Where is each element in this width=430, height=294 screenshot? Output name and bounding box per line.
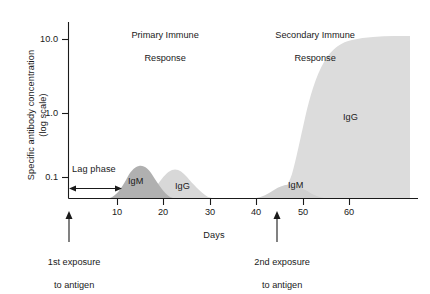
lag-phase-arrow-head-left <box>69 186 76 192</box>
x-tick-label-20: 20 <box>151 207 175 217</box>
y-tick-label-01: 0.1 <box>22 172 58 182</box>
curve-label-igg-secondary: IgG <box>343 112 358 122</box>
first-exposure-annotation: 1st exposure to antigen <box>18 245 120 294</box>
first-exposure-arrow-head <box>66 211 73 219</box>
x-tick-label-50: 50 <box>291 207 315 217</box>
primary-response-title: Primary Immune Response <box>94 18 226 76</box>
first-exposure-line1: 1st exposure <box>48 257 101 267</box>
x-tick-label-10: 10 <box>105 207 129 217</box>
curve-label-igm-secondary: IgM <box>288 180 303 190</box>
primary-response-title-line1: Primary Immune <box>131 30 198 40</box>
primary-response-title-line2: Response <box>144 53 185 63</box>
second-exposure-annotation: 2nd exposure to antigen <box>226 245 328 294</box>
y-tick-label-1: 1.0 <box>22 108 58 118</box>
curve-label-igg-primary: IgG <box>175 181 190 191</box>
secondary-response-title: Secondary Immune Response <box>234 18 386 76</box>
first-exposure-line2: to antigen <box>54 280 94 290</box>
second-exposure-line1: 2nd exposure <box>254 257 310 267</box>
lag-phase-label: Lag phase <box>72 164 116 176</box>
secondary-response-title-line1: Secondary Immune <box>275 30 355 40</box>
x-tick-label-60: 60 <box>337 207 361 217</box>
curve-label-igm-primary: IgM <box>128 176 143 186</box>
x-axis-label: Days <box>186 230 242 242</box>
x-tick-label-40: 40 <box>244 207 268 217</box>
secondary-response-title-line2: Response <box>294 53 335 63</box>
x-tick-label-30: 30 <box>198 207 222 217</box>
y-tick-label-10: 10.0 <box>22 34 58 44</box>
second-exposure-line2: to antigen <box>262 280 302 290</box>
second-exposure-arrow-head <box>274 211 281 219</box>
